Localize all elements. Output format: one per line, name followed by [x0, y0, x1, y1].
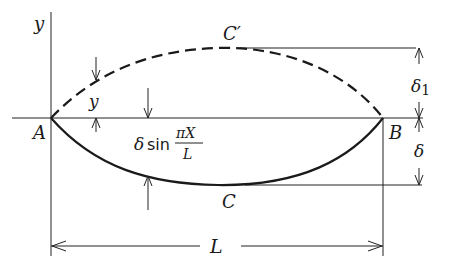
point-c-label: C [222, 191, 236, 212]
solid-sine-curve [51, 118, 383, 185]
length-label: L [209, 235, 223, 257]
point-b-label: B [388, 122, 402, 143]
deflection-diagram: y A B C′ C y L δ1 δ δ sin πX L [0, 0, 459, 268]
point-c-prime-label: C′ [223, 23, 241, 44]
formula-sin: sin [147, 135, 170, 154]
formula-delta: δ [134, 134, 144, 154]
formula-denominator: L [182, 146, 192, 162]
point-a-label: A [31, 122, 46, 143]
dashed-deflection-curve [51, 48, 383, 118]
formula-numerator: πX [175, 125, 196, 141]
y-axis-label: y [33, 13, 45, 34]
formula-delta-sin: δ sin πX L [134, 125, 203, 162]
ordinate-y-label: y [88, 91, 99, 111]
delta1-label: δ1 [411, 76, 430, 98]
delta-label: δ [414, 141, 424, 161]
